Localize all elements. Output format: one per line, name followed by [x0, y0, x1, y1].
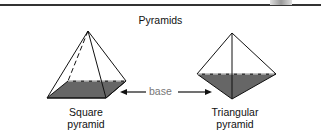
- label-line: Square: [46, 106, 126, 118]
- square-pyramid-label: Square pyramid: [46, 106, 126, 130]
- triangular-pyramid: [197, 33, 276, 99]
- square-base: [47, 81, 126, 98]
- square-pyramid: [47, 31, 126, 98]
- triangular-base: [197, 74, 276, 99]
- label-line: pyramid: [46, 118, 126, 130]
- label-line: pyramid: [190, 118, 280, 130]
- base-label: base: [147, 85, 174, 97]
- triangular-pyramid-label: Triangular pyramid: [190, 106, 280, 130]
- pyramids-diagram: Pyramids base Squa: [0, 0, 321, 138]
- label-line: Triangular: [190, 106, 280, 118]
